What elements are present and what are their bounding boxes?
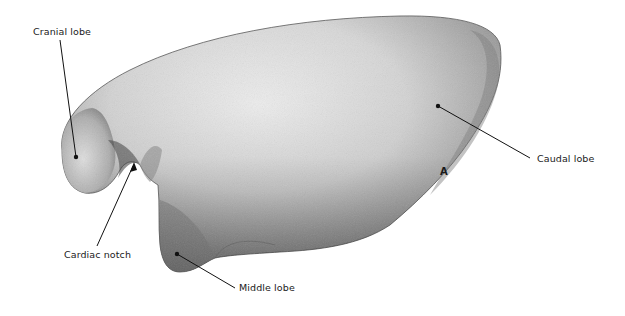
cardiac-notch-arrowhead [130, 162, 137, 172]
middle-lobe-label: Middle lobe [239, 282, 295, 293]
lung-body [55, 10, 510, 280]
cranial-lobe-label: Cranial lobe [33, 26, 91, 37]
caudal-lobe-label: Caudal lobe [537, 153, 594, 164]
lung-illustration [0, 0, 625, 316]
cranial-lobe-dot [74, 155, 78, 159]
caudal-lobe-dot [436, 104, 440, 108]
middle-lobe-dot [175, 252, 179, 256]
cardiac-notch-label: Cardiac notch [64, 249, 131, 260]
lung-diagram: Cranial lobe Cardiac notch Middle lobe C… [0, 0, 625, 316]
panel-letter: A [440, 166, 448, 177]
